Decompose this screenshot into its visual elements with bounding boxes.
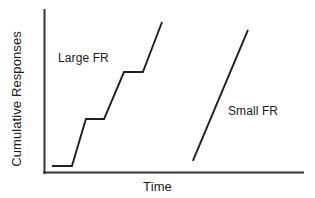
plot-area (0, 0, 315, 198)
y-axis-label: Cumulative Responses (10, 0, 34, 198)
series-line-small-fr (193, 30, 248, 161)
x-axis-label: Time (0, 180, 315, 193)
cumulative-record-figure: Cumulative Responses Time Large FR Small… (0, 0, 315, 198)
series-line-large-fr (52, 22, 162, 166)
series-label-large-fr: Large FR (58, 52, 109, 64)
series-label-small-fr: Small FR (228, 105, 278, 117)
